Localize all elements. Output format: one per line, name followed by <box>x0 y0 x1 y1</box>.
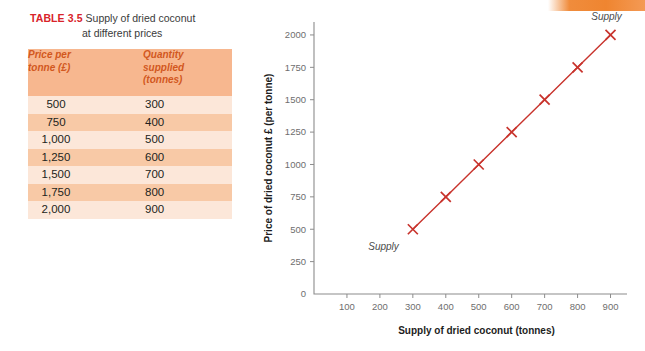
x-axis-title: Supply of dried coconut (tonnes) <box>398 325 555 336</box>
series-annotations: SupplySupply <box>368 11 623 252</box>
cell-quantity: 700 <box>130 166 232 184</box>
table-row: 1,500 700 <box>28 166 232 184</box>
x-tick-label: 800 <box>570 301 586 312</box>
table-caption: TABLE 3.5 Supply of dried coconut at dif… <box>28 11 240 40</box>
x-tick-label: 900 <box>603 301 619 312</box>
table-row: 1,250 600 <box>28 149 232 167</box>
x-tick-label: 700 <box>537 301 553 312</box>
column-header-quantity-line2: supplied <box>143 62 184 73</box>
table-row: 500 300 <box>28 96 232 114</box>
x-tick-label: 400 <box>438 301 454 312</box>
x-tick-label: 100 <box>339 301 355 312</box>
x-axis-ticks: 100200300400500600700800900 <box>339 294 618 312</box>
column-header-price-line1: Price per <box>28 49 71 60</box>
cell-quantity: 800 <box>130 184 232 202</box>
y-axis-title: Price of dried coconut £ (per tonne) <box>263 74 274 243</box>
cell-price: 1,750 <box>28 184 130 202</box>
table-row: 750 400 <box>28 114 232 132</box>
cell-price: 1,250 <box>28 149 130 167</box>
supply-chart: 025050075010001250150017502000 100200300… <box>250 8 645 351</box>
cell-price: 1,500 <box>28 166 130 184</box>
table-caption-line1: Supply of dried coconut <box>86 12 196 24</box>
column-header-quantity: Quantity supplied (tonnes) <box>130 49 232 96</box>
y-tick-label: 250 <box>290 256 306 267</box>
table-row: 1,000 500 <box>28 131 232 149</box>
series-annotation-label: Supply <box>368 241 400 252</box>
table-row: 1,750 800 <box>28 184 232 202</box>
y-tick-label: 1000 <box>285 159 306 170</box>
series-supply <box>408 30 616 234</box>
data-point-marker <box>408 224 418 234</box>
table-caption-line2: at different prices <box>30 26 240 40</box>
y-tick-label: 0 <box>301 288 306 299</box>
y-tick-label: 750 <box>290 191 306 202</box>
cell-price: 750 <box>28 114 130 132</box>
column-header-quantity-line1: Quantity <box>143 49 184 60</box>
cell-quantity: 400 <box>130 114 232 132</box>
cell-quantity: 600 <box>130 149 232 167</box>
y-tick-label: 1750 <box>285 62 306 73</box>
table-row: 2,000 900 <box>28 201 232 219</box>
cell-quantity: 300 <box>130 96 232 114</box>
y-tick-label: 500 <box>290 224 306 235</box>
table-header: Price per tonne (£) Quantity supplied (t… <box>28 49 232 96</box>
axis-lines <box>314 22 627 294</box>
table-block: TABLE 3.5 Supply of dried coconut at dif… <box>28 11 240 219</box>
data-point-marker <box>441 192 451 202</box>
y-tick-label: 2000 <box>285 29 306 40</box>
table-header-row: Price per tonne (£) Quantity supplied (t… <box>28 49 232 96</box>
supply-table: Price per tonne (£) Quantity supplied (t… <box>28 49 232 219</box>
y-tick-label: 1500 <box>285 94 306 105</box>
x-tick-label: 600 <box>504 301 520 312</box>
data-point-marker <box>573 62 583 72</box>
cell-quantity: 900 <box>130 201 232 219</box>
cell-price: 500 <box>28 96 130 114</box>
column-header-price: Price per tonne (£) <box>28 49 130 96</box>
column-header-price-line2: tonne (£) <box>28 62 70 73</box>
y-tick-label: 1250 <box>285 126 306 137</box>
cell-quantity: 500 <box>130 131 232 149</box>
table-number: TABLE 3.5 <box>30 12 83 24</box>
data-point-marker <box>606 30 616 40</box>
data-point-marker <box>540 95 550 105</box>
x-tick-label: 200 <box>372 301 388 312</box>
data-point-marker <box>474 159 484 169</box>
table-body: 500 300 750 400 1,000 500 1,250 600 1,50… <box>28 96 232 219</box>
y-axis-ticks: 025050075010001250150017502000 <box>285 29 314 299</box>
data-point-marker <box>507 127 517 137</box>
series-annotation-label: Supply <box>591 11 623 22</box>
x-tick-label: 500 <box>471 301 487 312</box>
cell-price: 2,000 <box>28 201 130 219</box>
x-tick-label: 300 <box>405 301 421 312</box>
chart-svg: 025050075010001250150017502000 100200300… <box>250 8 645 351</box>
cell-price: 1,000 <box>28 131 130 149</box>
chart-axes <box>314 22 627 294</box>
column-header-quantity-line3: (tonnes) <box>143 74 182 85</box>
